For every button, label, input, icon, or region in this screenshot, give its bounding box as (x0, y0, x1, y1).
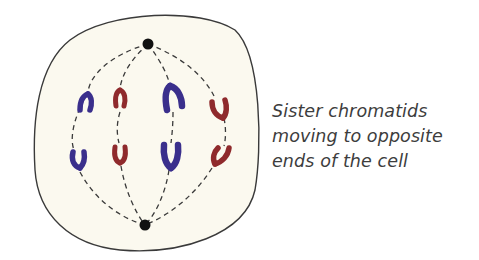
caption: Sister chromatids moving to opposite end… (272, 99, 477, 174)
spindle-pole-bottom (140, 220, 151, 231)
caption-line-1: Sister chromatids (272, 99, 477, 124)
caption-line-2: moving to opposite (272, 124, 477, 149)
caption-line-3: ends of the cell (272, 149, 477, 174)
cell-membrane (34, 15, 259, 251)
spindle-pole-top (143, 39, 154, 50)
